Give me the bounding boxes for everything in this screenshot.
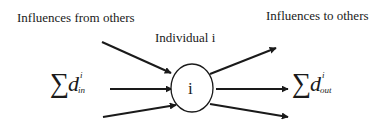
outgoing-arrow-top [210, 48, 276, 74]
sum-symbol: ∑ [292, 70, 311, 97]
influence-diagram [0, 0, 385, 127]
incoming-arrow-bottom [103, 105, 176, 117]
outflow-formula: ∑ d i out [292, 71, 342, 99]
superscript: i [322, 71, 325, 80]
subscript: in [78, 86, 85, 95]
outgoing-arrow-bottom [210, 104, 288, 117]
superscript: i [80, 71, 83, 80]
incoming-arrows [102, 42, 176, 117]
outgoing-arrows [210, 48, 288, 117]
node-label: i [188, 80, 193, 97]
subscript: out [320, 86, 332, 95]
inflow-formula: ∑ d i in [50, 71, 90, 99]
sum-symbol: ∑ [50, 70, 69, 97]
incoming-arrow-top [102, 42, 171, 73]
